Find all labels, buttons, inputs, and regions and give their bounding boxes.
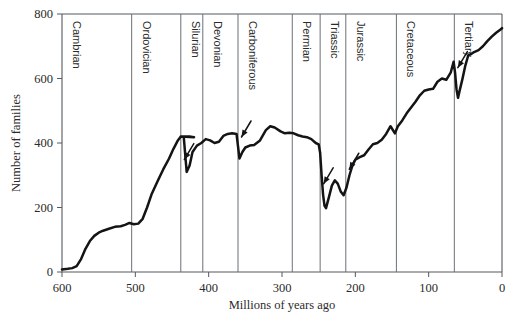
period-label-carboniferous: Carboniferous <box>247 21 259 91</box>
diversity-curve <box>62 28 502 269</box>
chart-canvas: 0200400600800Number of families600500400… <box>0 0 519 319</box>
plot-frame <box>62 14 502 272</box>
period-label-cretaceous: Cretaceous <box>405 21 417 78</box>
period-label-permian: Permian <box>301 21 313 62</box>
period-label-cambrian: Cambrian <box>71 21 83 69</box>
x-tick-label: 0 <box>499 281 505 295</box>
x-tick-label: 600 <box>53 281 72 295</box>
y-axis-title: Number of families <box>9 94 23 192</box>
y-tick-label: 800 <box>34 7 53 21</box>
period-label-ordovician: Ordovician <box>141 21 153 74</box>
x-tick-label: 500 <box>126 281 145 295</box>
x-tick-label: 400 <box>199 281 218 295</box>
period-label-silurian: Silurian <box>190 21 202 58</box>
period-label-devonian: Devonian <box>212 21 224 67</box>
y-tick-label: 200 <box>34 201 53 215</box>
x-tick-label: 100 <box>419 281 438 295</box>
y-tick-label: 400 <box>34 136 53 150</box>
x-tick-label: 300 <box>273 281 292 295</box>
diversity-chart-figure: 0200400600800Number of families600500400… <box>0 0 519 319</box>
x-axis-title: Millions of years ago <box>229 298 336 312</box>
y-tick-label: 600 <box>34 72 53 86</box>
y-tick-label: 0 <box>47 265 53 279</box>
period-label-jurassic: Jurassic <box>355 21 367 62</box>
period-label-triassic: Triassic <box>329 21 341 59</box>
x-tick-label: 200 <box>346 281 365 295</box>
